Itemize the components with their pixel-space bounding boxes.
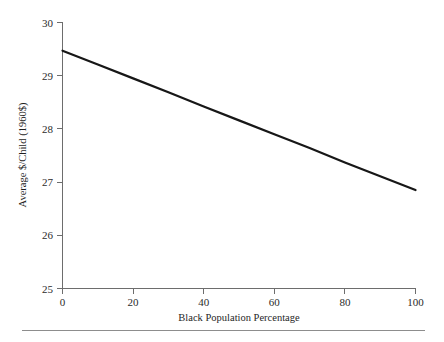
x-tick-label-20: 20	[128, 296, 140, 308]
x-tick-label-100: 100	[407, 296, 424, 308]
x-axis-title: Black Population Percentage	[178, 312, 300, 323]
data-series-line	[63, 51, 416, 190]
x-tick-label-0: 0	[60, 296, 66, 308]
x-tick-label-60: 60	[269, 296, 281, 308]
y-tick-label-25: 25	[42, 283, 54, 295]
y-tick-label-29: 29	[42, 70, 54, 82]
x-axis-tick-labels: 0 20 40 60 80 100	[60, 296, 425, 308]
x-tick-label-40: 40	[198, 296, 210, 308]
y-axis-title: Average $/Child (1960$)	[17, 102, 29, 207]
x-axis-ticks	[63, 289, 416, 295]
figure-container: 25 26 27 28 29 30 0 20 40 60 80 100 Blac…	[0, 0, 444, 342]
x-tick-label-80: 80	[339, 296, 351, 308]
y-tick-label-30: 30	[42, 17, 54, 29]
y-axis-tick-labels: 25 26 27 28 29 30	[42, 17, 54, 295]
line-chart: 25 26 27 28 29 30 0 20 40 60 80 100 Blac…	[0, 0, 444, 342]
y-tick-label-27: 27	[42, 176, 54, 188]
y-tick-label-26: 26	[42, 229, 54, 241]
y-tick-label-28: 28	[42, 123, 54, 135]
y-axis-ticks	[57, 23, 63, 289]
